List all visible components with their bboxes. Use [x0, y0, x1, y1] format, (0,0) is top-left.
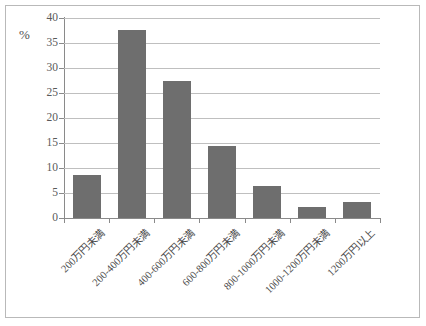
bar: [163, 81, 191, 218]
bar: [298, 207, 326, 218]
y-axis-tick-label: 5: [34, 187, 58, 199]
x-axis-tick-mark: [64, 218, 65, 223]
y-axis-tick-label: 0: [34, 212, 58, 224]
x-axis-tick-mark: [199, 218, 200, 223]
y-axis-tick-labels: 4035302520151050: [28, 0, 58, 326]
bar: [208, 146, 236, 218]
gridline: [64, 93, 380, 94]
y-axis-tick-label: 25: [34, 87, 58, 99]
bar-chart-figure: % 4035302520151050 200万円未満200-400万円未満400…: [0, 0, 426, 326]
gridline: [64, 43, 380, 44]
y-axis-tick-label: 20: [34, 112, 58, 124]
x-axis-tick-mark: [245, 218, 246, 223]
x-axis-tick-mark: [290, 218, 291, 223]
y-axis-tick-label: 30: [34, 62, 58, 74]
bar: [343, 202, 371, 219]
gridline: [64, 118, 380, 119]
gridline: [64, 143, 380, 144]
x-axis-tick-mark: [335, 218, 336, 223]
x-axis-tick-mark: [109, 218, 110, 223]
x-axis-tick-mark: [154, 218, 155, 223]
plot-area: [64, 18, 380, 218]
x-axis-tick-mark: [380, 218, 381, 223]
gridline: [64, 68, 380, 69]
y-axis-tick-label: 35: [34, 37, 58, 49]
bar: [118, 30, 146, 218]
bar: [73, 175, 101, 218]
gridline: [64, 18, 380, 19]
y-axis-tick-label: 10: [34, 162, 58, 174]
axis-baseline: [64, 218, 380, 219]
y-axis-tick-label: 15: [34, 137, 58, 149]
bar: [253, 186, 281, 218]
y-axis-tick-label: 40: [34, 12, 58, 24]
